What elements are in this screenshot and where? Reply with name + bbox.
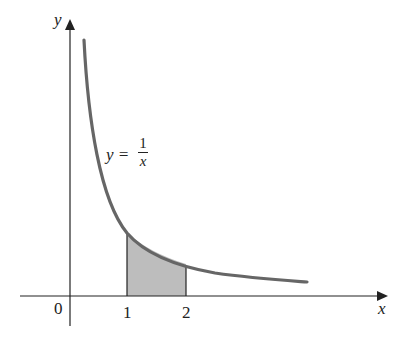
figure: y x 0 1 2 y = 1 x — [0, 0, 398, 348]
equation-lhs-text: y = — [106, 145, 129, 164]
plot-canvas — [0, 0, 398, 348]
tick-label-1: 1 — [123, 303, 132, 323]
fraction-denominator: x — [140, 154, 147, 169]
x-axis-label: x — [378, 299, 386, 319]
tick-label-2: 2 — [182, 303, 191, 323]
y-axis-arrow-icon — [65, 19, 75, 30]
fraction-numerator: 1 — [139, 136, 147, 151]
y-axis-label: y — [54, 10, 62, 30]
equation-fraction: 1 x — [138, 136, 148, 169]
origin-label: 0 — [54, 299, 63, 319]
equation-lhs: y = — [106, 145, 129, 165]
